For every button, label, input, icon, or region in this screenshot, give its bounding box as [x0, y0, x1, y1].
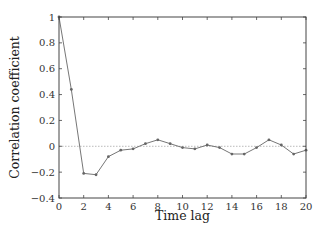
x-tick-label: 0	[56, 201, 62, 212]
data-point	[206, 144, 209, 147]
y-tick-label: 0.6	[39, 63, 55, 74]
data-point	[82, 172, 85, 175]
x-tick-label: 6	[130, 201, 136, 212]
x-tick-label: 16	[250, 201, 263, 212]
y-axis-title: Correlation coefficient	[7, 36, 22, 179]
y-tick-label: 0.8	[39, 37, 55, 48]
x-axis-title: Time lag	[155, 208, 210, 223]
data-point	[255, 146, 258, 149]
x-tick-label: 20	[300, 201, 313, 212]
data-point	[280, 144, 283, 147]
y-tick-label: 0.2	[39, 115, 55, 126]
data-point	[70, 88, 73, 91]
data-point	[218, 146, 221, 149]
y-tick-labels: −0.4−0.200.20.40.60.81	[31, 12, 55, 204]
data-point	[107, 155, 110, 158]
data-point	[119, 149, 122, 152]
x-tick-label: 18	[275, 201, 288, 212]
data-point	[95, 173, 98, 176]
data-point	[132, 147, 135, 150]
autocorrelation-chart: 02468101214161820 −0.4−0.200.20.40.60.81…	[0, 0, 327, 236]
y-tick-label: 1	[49, 12, 55, 23]
data-series	[58, 16, 308, 177]
series-line	[59, 17, 306, 175]
x-tick-label: 14	[226, 201, 239, 212]
y-tick-label: 0	[49, 141, 55, 152]
plot-frame	[59, 17, 306, 198]
data-point	[193, 147, 196, 150]
data-point	[243, 153, 246, 156]
data-point	[156, 138, 159, 141]
axis-ticks	[59, 17, 306, 198]
y-tick-label: 0.4	[39, 89, 55, 100]
x-tick-label: 2	[81, 201, 87, 212]
data-point	[144, 142, 147, 145]
x-tick-label: 4	[105, 201, 111, 212]
data-point	[231, 153, 234, 156]
data-point	[268, 138, 271, 141]
y-tick-label: −0.4	[31, 193, 55, 204]
data-point	[169, 142, 172, 145]
data-point	[292, 153, 295, 156]
y-tick-label: −0.2	[31, 167, 55, 178]
data-point	[181, 146, 184, 149]
